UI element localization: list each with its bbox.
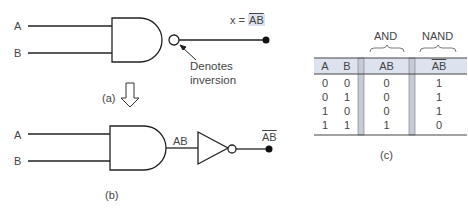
input-b-label-b: B [14, 156, 21, 167]
annotation-line2: inversion [190, 75, 236, 87]
col-header-nand: AB [415, 60, 463, 73]
cell: 1 [415, 91, 463, 104]
cell: 1 [316, 105, 334, 118]
output-prefix: x = [230, 14, 248, 26]
cell: 0 [415, 119, 463, 132]
final-output-label: AB [262, 132, 277, 143]
cell: 1 [415, 77, 463, 90]
and-not-circuit-b [28, 126, 268, 170]
cell: 0 [364, 91, 409, 104]
down-arrow-icon [121, 83, 139, 107]
cell: 0 [316, 77, 334, 90]
and-output-label: AB [173, 136, 188, 147]
annotation-line1: Denotes [190, 61, 233, 73]
col-header-and: AB [364, 60, 409, 73]
cell: 0 [338, 77, 356, 90]
col-header-a: A [316, 60, 334, 73]
input-a-label: A [14, 21, 21, 32]
output-value: AB [248, 14, 265, 26]
output-node-b [266, 146, 273, 153]
output-node-a [263, 37, 270, 44]
cell: 1 [338, 119, 356, 132]
cell: 1 [364, 119, 409, 132]
cell: 0 [364, 77, 409, 90]
output-expression-a: x = AB [230, 15, 265, 26]
annotation-arrow [180, 45, 196, 60]
input-b-label: B [14, 48, 21, 59]
cell: 0 [316, 91, 334, 104]
caption-a: (a) [102, 93, 115, 104]
col-header-b: B [338, 60, 356, 73]
group-header-and: AND [374, 31, 397, 42]
cell: 0 [364, 105, 409, 118]
group-header-nand: NAND [422, 31, 453, 42]
cell: 0 [338, 105, 356, 118]
caption-b: (b) [105, 190, 118, 201]
cell: 1 [415, 105, 463, 118]
cell: 1 [316, 119, 334, 132]
input-a-label-b: A [14, 130, 21, 141]
cell: 1 [338, 91, 356, 104]
caption-c: (c) [380, 150, 393, 161]
